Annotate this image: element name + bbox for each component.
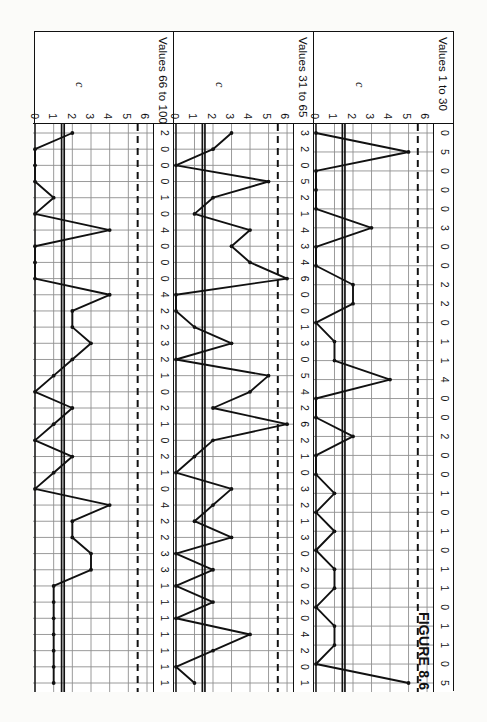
panel-3-x-tick-32: 1 [159,632,170,638]
panel-1-data-point-5 [314,207,318,211]
panel-1-data-point-26 [314,605,318,609]
panel-2-x-tick-35: 1 [299,680,310,686]
panel-1-title: Values 1 to 30 [437,37,449,111]
panel-1-x-tick-12: 1 [439,339,450,345]
panel-2-y-tick-1: 1 [188,113,199,119]
panel-1-data-point-3 [314,169,318,173]
panel-1-x-tick-21: 0 [439,509,450,515]
panel-2-y-tick-5: 5 [261,113,272,119]
panel-2-x-tick-14: 3 [299,340,310,346]
panel-1-data-point-7 [314,245,318,249]
panel-1-x-tick-24: 1 [439,566,450,572]
panel-2-data-point-6 [192,212,196,216]
panel-1-x-tick-9: 2 [439,282,450,288]
panel-3-x-tick-16: 1 [159,373,170,379]
panel-3-x-tick-22: 1 [159,470,170,476]
panel-3-x-tick-1: 2 [159,130,170,136]
panel-1-data-line [315,133,408,683]
panel-2-data-point-22 [174,471,178,475]
panel-3-y-tick-1: 1 [48,113,59,119]
panel-3-y-tick-4: 4 [103,113,114,119]
panel-3-data-point-12 [70,309,74,313]
panel-3-x-tick-5: 1 [159,195,170,201]
panel-3-x-tick-23: 0 [159,486,170,492]
figure-body: Values 1 to 30 c 6543210 050003002201140… [34,31,454,691]
panel-3-x-tick-3: 0 [159,162,170,168]
panel-3-data-point-2 [33,147,37,151]
panel-1-x-tick-27: 1 [439,623,450,629]
figure-rotation-wrapper: Values 1 to 30 c 6543210 050003002201140… [34,31,454,691]
panel-2-data-point-15 [174,358,178,362]
panel-1-label-column: Values 1 to 30 c 6543210 [314,32,453,124]
panel-2-x-tick-4: 5 [299,179,310,185]
panel-2-x-tick-6: 1 [299,211,310,217]
panel-3-x-tick-29: 1 [159,583,170,589]
panel-2-x-tick-23: 3 [299,486,310,492]
panel-2-y-tick-2: 2 [206,113,217,119]
panel-1-data-point-1 [314,131,318,135]
panel-3-x-axis: 20001040004223210210210422331111111 [153,124,173,692]
panel-2-y-ticks: 6543210 [178,31,287,123]
panel-3-data-point-25 [70,519,74,523]
panel-3-data-point-13 [70,325,74,329]
panel-3-x-tick-28: 3 [159,567,170,573]
panel-1-data-point-21 [314,510,318,514]
panel-1-data-point-23 [314,548,318,552]
panel-2-x-tick-20: 2 [299,437,310,443]
panel-1-x-tick-3: 0 [439,168,450,174]
panel-1-x-tick-22: 1 [439,528,450,534]
panel-3-x-tick-15: 2 [159,357,170,363]
panel-2-data-point-27 [174,552,178,556]
panel-2-x-tick-2: 2 [299,146,310,152]
panel-1-y-tick-6: 6 [419,113,430,119]
panel-2-x-tick-32: 4 [299,632,310,638]
panel-2-x-tick-30: 2 [299,599,310,605]
panel-1-x-tick-2: 5 [439,149,450,155]
panel-1-data-point-11 [314,321,318,325]
panel-1-x-tick-8: 0 [439,263,450,269]
panel-1-x-tick-5: 0 [439,206,450,212]
panel-3-title: Values 66 to 100 [157,37,169,124]
panel-1-data-point-4 [314,188,318,192]
panel-3-data-point-30 [51,600,55,604]
panel-1-data-point-13 [332,359,336,363]
panel-3-x-tick-13: 2 [159,324,170,330]
panel-2-data-point-12 [174,309,178,313]
panel-1-x-tick-4: 0 [439,187,450,193]
panel-2-data-point-31 [174,616,178,620]
panel-2-x-tick-19: 6 [299,421,310,427]
panel-2-x-tick-34: 0 [299,664,310,670]
panel-3-data-point-32 [51,633,55,637]
panel-3-data-point-9 [33,261,37,265]
panel-1-y-tick-1: 1 [328,113,339,119]
panel-3-label-column: Values 66 to 100 c 6543210 [33,32,173,124]
panel-3-data-point-10 [33,277,37,281]
panel-1-x-tick-7: 0 [439,244,450,250]
panel-1-y-tick-3: 3 [364,113,375,119]
panel-3-x-tick-10: 0 [159,276,170,282]
panel-1-data-point-16 [314,416,318,420]
panel-2-x-tick-28: 2 [299,567,310,573]
panel-2-plot-wrapper: 32052143460013054262103213020204201 [174,124,313,692]
panel-3-x-tick-19: 1 [159,421,170,427]
panel-3-data-point-3 [33,163,37,167]
panel-2-x-tick-33: 2 [299,648,310,654]
panel-3-svg [33,124,153,692]
panel-2-data-point-8 [229,244,233,248]
panel-3-data-point-20 [33,438,37,442]
panel-3-x-tick-20: 0 [159,437,170,443]
panel-1-data-point-8 [314,264,318,268]
panel-1-x-tick-1: 0 [439,130,450,136]
panel-2-x-tick-16: 5 [299,373,310,379]
panel-2-data-point-25 [192,519,196,523]
panel-2-x-tick-22: 0 [299,470,310,476]
panel-3-x-tick-24: 4 [159,502,170,508]
panel-3-x-tick-31: 1 [159,615,170,621]
panel-1-x-axis: 050003002201140020010101101105 [433,124,453,692]
panel-3-x-tick-18: 2 [159,405,170,411]
panel-2-x-tick-12: 0 [299,308,310,314]
panel-3-x-tick-9: 0 [159,259,170,265]
panel-3-x-tick-12: 2 [159,308,170,314]
panel-3-x-tick-25: 2 [159,518,170,524]
panel-3-x-tick-34: 1 [159,664,170,670]
